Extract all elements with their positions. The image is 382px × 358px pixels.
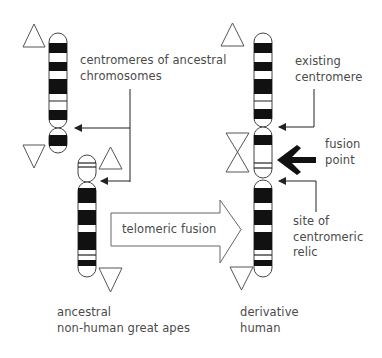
telomere-triangle-down-icon bbox=[230, 267, 253, 290]
label-fusion-point: fusion point bbox=[325, 137, 360, 168]
telomere-triangle-down-icon bbox=[23, 145, 45, 168]
telomere-triangle-down-icon bbox=[99, 268, 122, 292]
fusion-point-arrow-icon bbox=[277, 145, 316, 175]
label-ancestral-apes: ancestral non-human great apes bbox=[57, 305, 190, 336]
fusion-hourglass-icon bbox=[226, 133, 249, 172]
label-existing-centromere: existing centromere bbox=[295, 54, 363, 85]
telomere-triangle-up-icon bbox=[221, 23, 244, 46]
label-telomeric-fusion: telomeric fusion bbox=[122, 222, 216, 238]
label-derivative-human: derivative human bbox=[240, 305, 299, 336]
telomere-triangle-up-icon bbox=[99, 147, 122, 169]
centromeric-relic-pointer bbox=[279, 181, 316, 212]
telomere-triangle-up-icon bbox=[23, 24, 45, 47]
label-site-of-centromeric-relic: site of centromeric relic bbox=[293, 214, 363, 261]
label-centromeres-ancestral: centromeres of ancestral chromosomes bbox=[80, 53, 227, 84]
ancestral-chromosome-a bbox=[23, 24, 67, 168]
existing-centromere-pointer bbox=[279, 89, 314, 127]
